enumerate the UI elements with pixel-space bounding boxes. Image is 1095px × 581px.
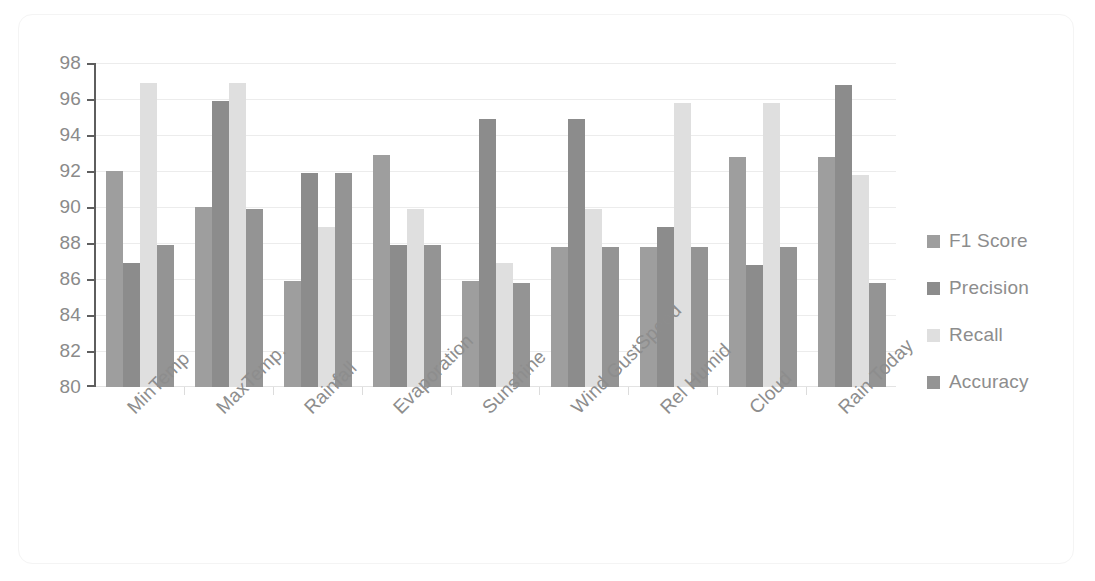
legend-label: Recall (949, 324, 1003, 346)
bar-recall[interactable] (407, 209, 424, 387)
y-axis-tick-mark (87, 279, 96, 281)
bar-precision[interactable] (479, 119, 496, 387)
y-axis-tick-label: 94 (59, 124, 81, 146)
legend-label: F1 Score (949, 230, 1028, 252)
y-axis-tick-label: 90 (59, 196, 81, 218)
legend-label: Precision (949, 277, 1029, 299)
y-axis-tick-label: 88 (59, 232, 81, 254)
y-axis-tick-label: 84 (59, 304, 81, 326)
bar-recall[interactable] (496, 263, 513, 387)
y-axis-tick-mark (87, 351, 96, 353)
bar-precision[interactable] (746, 265, 763, 387)
legend-swatch-icon (927, 376, 940, 389)
legend-swatch-icon (927, 282, 940, 295)
bar-precision[interactable] (835, 85, 852, 387)
bar-f1-score[interactable] (195, 207, 212, 387)
bar-f1-score[interactable] (106, 171, 123, 387)
bar-recall[interactable] (318, 227, 335, 387)
y-axis-tick-mark (87, 207, 96, 209)
chart-card: 98969492908886848280 MinTempMaxTemp.Rain… (18, 14, 1074, 564)
bar-precision[interactable] (390, 245, 407, 387)
chart-plot-wrapper: 98969492908886848280 MinTempMaxTemp.Rain… (19, 15, 1073, 563)
chart-legend: F1 ScorePrecisionRecallAccuracy (927, 230, 1077, 418)
plot-area (96, 63, 896, 387)
bar-precision[interactable] (568, 119, 585, 387)
bar-recall[interactable] (852, 175, 869, 387)
y-axis-tick-label: 92 (59, 160, 81, 182)
legend-item-recall[interactable]: Recall (927, 324, 1077, 346)
y-axis-tick-mark (87, 315, 96, 317)
bar-group (363, 63, 452, 387)
bar-groups (96, 63, 896, 387)
bar-recall[interactable] (763, 103, 780, 387)
bar-group (718, 63, 807, 387)
bar-recall[interactable] (585, 209, 602, 387)
y-axis-bottom-cap (87, 385, 96, 387)
bar-precision[interactable] (212, 101, 229, 387)
y-axis-tick-label: 98 (59, 52, 81, 74)
y-axis-tick-label: 82 (59, 340, 81, 362)
y-axis-tick-mark (87, 243, 96, 245)
bar-recall[interactable] (674, 103, 691, 387)
y-axis-tick-label: 96 (59, 88, 81, 110)
legend-item-f1-score[interactable]: F1 Score (927, 230, 1077, 252)
y-axis-tick-mark (87, 99, 96, 101)
bar-accuracy[interactable] (335, 173, 352, 387)
y-axis-top-cap (87, 63, 96, 65)
bar-recall[interactable] (140, 83, 157, 387)
x-axis-category-labels: MinTempMaxTemp.RainfallEvaporationSunshi… (96, 389, 896, 539)
bar-f1-score[interactable] (551, 247, 568, 387)
legend-item-accuracy[interactable]: Accuracy (927, 371, 1077, 393)
y-axis-tick-mark (87, 135, 96, 137)
bar-group (540, 63, 629, 387)
bar-group (185, 63, 274, 387)
legend-item-precision[interactable]: Precision (927, 277, 1077, 299)
bar-f1-score[interactable] (284, 281, 301, 387)
bar-precision[interactable] (123, 263, 140, 387)
y-axis-tick-labels: 98969492908886848280 (29, 63, 81, 387)
y-axis-tick-label: 80 (59, 376, 81, 398)
bar-recall[interactable] (229, 83, 246, 387)
legend-label: Accuracy (949, 371, 1029, 393)
bar-group (807, 63, 896, 387)
y-axis-tick-mark (87, 171, 96, 173)
y-axis-tick-label: 86 (59, 268, 81, 290)
bar-precision[interactable] (301, 173, 318, 387)
bar-f1-score[interactable] (818, 157, 835, 387)
bar-group (274, 63, 363, 387)
bar-accuracy[interactable] (780, 247, 797, 387)
legend-swatch-icon (927, 235, 940, 248)
bar-group (96, 63, 185, 387)
legend-swatch-icon (927, 329, 940, 342)
bar-f1-score[interactable] (373, 155, 390, 387)
